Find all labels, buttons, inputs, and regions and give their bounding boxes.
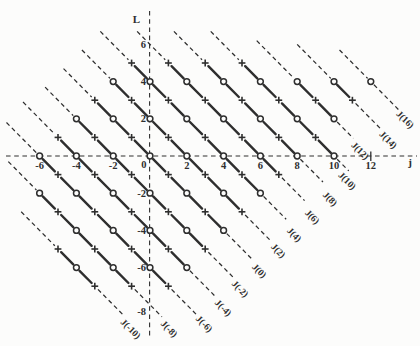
j-line-label: J(8) bbox=[320, 190, 339, 209]
marker-circle bbox=[110, 79, 116, 85]
j-line-solid bbox=[80, 196, 92, 208]
j-line-lead-dash bbox=[82, 50, 110, 78]
j-line-label: J(-4) bbox=[212, 298, 233, 319]
j-line-solid bbox=[227, 196, 239, 208]
j-line-solid bbox=[227, 122, 239, 134]
j-line-lead-dash bbox=[174, 31, 202, 59]
coupling-diagram-figure: -6-4-224681012642-2-4-6-80jLJ(16)J(14)J(… bbox=[0, 0, 420, 346]
marker-circle bbox=[294, 153, 300, 159]
j-line-trail-dash bbox=[264, 196, 287, 219]
j-line-lead-dash bbox=[6, 123, 36, 153]
j-line-solid bbox=[153, 122, 165, 134]
j-line-solid bbox=[190, 234, 202, 246]
j-line-solid bbox=[190, 85, 202, 97]
marker-circle bbox=[294, 116, 300, 122]
marker-circle bbox=[110, 190, 116, 196]
y-tick-label: 6 bbox=[141, 39, 146, 50]
j-line-solid bbox=[116, 159, 128, 171]
j-line-label: J(2) bbox=[268, 242, 287, 261]
j-line-solid bbox=[80, 271, 92, 283]
j-line-solid bbox=[227, 159, 239, 171]
y-tick-label: 2 bbox=[141, 113, 146, 124]
j-line-lead-dash bbox=[100, 31, 128, 59]
marker-circle bbox=[258, 79, 264, 85]
j-line-solid bbox=[98, 215, 110, 227]
marker-circle bbox=[110, 228, 116, 234]
y-axis-label: L bbox=[133, 13, 140, 25]
j-line-solid bbox=[153, 85, 165, 97]
j-line-label: J(0) bbox=[249, 262, 268, 281]
marker-circle bbox=[110, 116, 116, 122]
marker-circle bbox=[221, 116, 227, 122]
j-line-solid bbox=[98, 252, 110, 264]
marker-circle bbox=[110, 153, 116, 159]
marker-circle bbox=[258, 116, 264, 122]
marker-circle bbox=[147, 228, 153, 234]
x-axis-label: j bbox=[407, 156, 412, 168]
y-tick-label: -6 bbox=[137, 262, 146, 273]
j-line-solid bbox=[116, 85, 128, 97]
marker-circle bbox=[147, 190, 153, 196]
j-line-solid bbox=[116, 122, 128, 134]
marker-circle bbox=[221, 79, 227, 85]
x-tick-label: -6 bbox=[35, 160, 44, 171]
j-line-solid bbox=[43, 159, 55, 171]
marker-circle bbox=[221, 153, 227, 159]
j-line-lead-dash bbox=[23, 102, 55, 134]
j-line-solid bbox=[337, 85, 349, 97]
j-line-label: J(10) bbox=[336, 170, 358, 192]
j-line-solid bbox=[264, 85, 276, 97]
j-line-solid bbox=[264, 122, 276, 134]
marker-circle bbox=[184, 153, 190, 159]
marker-circle bbox=[184, 265, 190, 271]
marker-circle bbox=[258, 153, 264, 159]
marker-circle bbox=[74, 116, 80, 122]
j-line-lead-dash bbox=[340, 50, 368, 78]
marker-circle bbox=[331, 79, 337, 85]
j-line-solid bbox=[116, 196, 128, 208]
j-line-label: J(-10) bbox=[118, 317, 143, 342]
marker-circle bbox=[147, 116, 153, 122]
j-line-lead-dash bbox=[21, 212, 55, 246]
marker-circle bbox=[184, 228, 190, 234]
j-line-solid bbox=[172, 141, 184, 153]
j-line-label: J(4) bbox=[284, 226, 303, 245]
plot-svg: -6-4-224681012642-2-4-6-80jLJ(16)J(14)J(… bbox=[0, 0, 420, 346]
j-line-solid bbox=[172, 178, 184, 190]
marker-circle bbox=[294, 79, 300, 85]
j-line-solid bbox=[116, 271, 128, 283]
j-line-solid bbox=[190, 196, 202, 208]
marker-circle bbox=[147, 153, 153, 159]
j-line-solid bbox=[43, 196, 55, 208]
j-line-solid bbox=[245, 141, 257, 153]
j-line-solid bbox=[208, 215, 220, 227]
j-line-trail-dash bbox=[374, 85, 398, 110]
marker-circle bbox=[37, 190, 43, 196]
marker-circle bbox=[221, 228, 227, 234]
j-line-trail-dash bbox=[282, 178, 305, 201]
j-line-trail-dash bbox=[98, 289, 123, 315]
j-line-solid bbox=[208, 66, 220, 78]
j-line-solid bbox=[153, 159, 165, 171]
x-tick-label: 4 bbox=[221, 160, 227, 171]
j-line-solid bbox=[80, 234, 92, 246]
j-line-label: J(14) bbox=[377, 129, 399, 151]
j-line-label: J(-6) bbox=[193, 314, 214, 335]
j-line-solid bbox=[190, 122, 202, 134]
j-line-solid bbox=[300, 122, 312, 134]
j-line-solid bbox=[80, 122, 92, 134]
marker-circle bbox=[74, 265, 80, 271]
marker-circle bbox=[147, 79, 153, 85]
marker-circle bbox=[74, 153, 80, 159]
j-line-trail-dash bbox=[227, 234, 251, 259]
j-line-solid bbox=[300, 85, 312, 97]
j-line-solid bbox=[153, 234, 165, 246]
j-line-solid bbox=[61, 215, 73, 227]
marker-circle bbox=[74, 190, 80, 196]
j-line-solid bbox=[135, 141, 147, 153]
j-line-trail-dash bbox=[190, 271, 214, 296]
j-line-solid bbox=[208, 141, 220, 153]
y-tick-label: 4 bbox=[141, 76, 147, 87]
marker-circle bbox=[184, 79, 190, 85]
j-line-label: J(6) bbox=[302, 208, 321, 227]
